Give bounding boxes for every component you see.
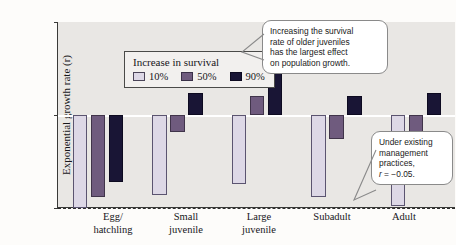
bar-large-juvenile-50%: [250, 96, 265, 115]
bar-adult-90%: [427, 93, 442, 115]
xlabel-small-juvenile-line1: Small: [169, 211, 203, 224]
bar-large-juvenile-10%: [232, 115, 247, 184]
xlabel-subadult: Subadult: [313, 211, 350, 224]
xlabel-large-juvenile-line2: juvenile: [242, 224, 276, 237]
reference-line-minus-005: [58, 208, 455, 209]
annotation-callout-bottom: Under existing management practices, r =…: [371, 131, 453, 185]
legend-item-90[interactable]: 90%: [230, 71, 265, 82]
bar-egg-hatchling-90%: [109, 115, 124, 182]
bar-egg-hatchling-10%: [73, 115, 88, 208]
legend-item-50[interactable]: 50%: [181, 71, 216, 82]
xlabel-small-juvenile: Small juvenile: [169, 211, 203, 236]
annotation-bottom-r-value: = −0.05.: [382, 169, 415, 179]
xlabel-adult-line1: Adult: [392, 211, 416, 224]
xlabel-large-juvenile: Large juvenile: [242, 211, 276, 236]
legend-title: Increase in survival: [133, 56, 265, 68]
legend-swatch-10-icon: [133, 72, 145, 81]
annotation-top-line3: has the largest effect: [270, 47, 380, 58]
legend-swatch-50-icon: [181, 72, 193, 81]
xlabel-small-juvenile-line2: juvenile: [169, 224, 203, 237]
bar-small-juvenile-90%: [188, 93, 203, 115]
legend-label-90: 90%: [246, 71, 265, 82]
legend-label-50: 50%: [197, 71, 216, 82]
bar-subadult-10%: [311, 115, 326, 197]
annotation-top-line1: Increasing the survival: [270, 26, 380, 37]
annotation-top-line2: rate of older juveniles: [270, 37, 380, 48]
legend-swatch-90-icon: [230, 72, 242, 81]
bar-small-juvenile-10%: [152, 115, 167, 195]
legend: Increase in survival 10% 50% 90%: [124, 51, 275, 88]
figure-canvas: 0.05 0 -0.05 Exponential growth rate (r)…: [0, 0, 456, 245]
xlabel-egg-hatchling-line1: Egg/: [93, 211, 132, 224]
annotation-top-line4: on population growth.: [270, 58, 380, 69]
annotation-callout-top: Increasing the survival rate of older ju…: [262, 20, 388, 74]
bar-egg-hatchling-50%: [91, 115, 106, 197]
annotation-bottom-line4: r = −0.05.: [379, 169, 445, 180]
legend-label-10: 10%: [149, 71, 168, 82]
legend-item-10[interactable]: 10%: [133, 71, 168, 82]
annotation-bottom-line3: practices,: [379, 158, 445, 169]
xlabel-large-juvenile-line1: Large: [242, 211, 276, 224]
xlabel-egg-hatchling-line2: hatchling: [93, 224, 132, 237]
bar-subadult-50%: [329, 115, 344, 139]
annotation-bottom-line1: Under existing: [379, 137, 445, 148]
xlabel-adult: Adult: [392, 211, 416, 224]
xlabel-egg-hatchling: Egg/ hatchling: [93, 211, 132, 236]
bar-small-juvenile-50%: [170, 115, 185, 132]
legend-items: 10% 50% 90%: [133, 71, 265, 82]
annotation-bottom-line2: management: [379, 148, 445, 159]
bar-subadult-90%: [347, 96, 362, 115]
xlabel-subadult-line1: Subadult: [313, 211, 350, 224]
